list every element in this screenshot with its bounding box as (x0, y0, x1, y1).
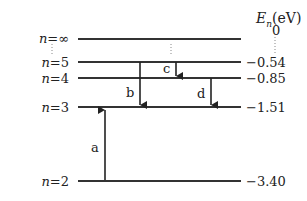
transition-a-label: a (91, 141, 99, 154)
transition-b-label: b (126, 86, 134, 99)
transition-arrows (0, 0, 307, 201)
transition-d-label: d (197, 87, 205, 100)
transition-c-label: c (163, 62, 170, 75)
